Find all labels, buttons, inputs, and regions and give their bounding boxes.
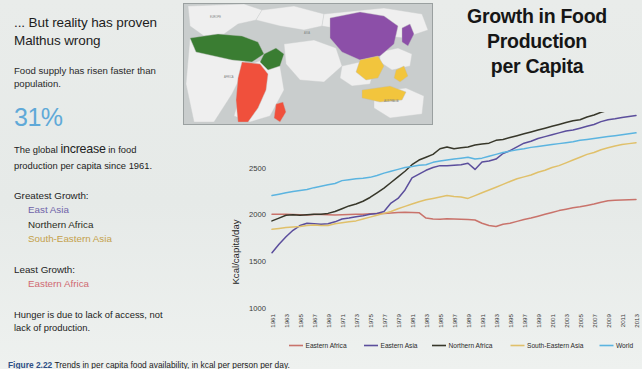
greatest-growth-item-south-eastern-asia: South-Eastern Asia [28,232,180,246]
left-text-panel: ... But reality has proven Malthus wrong… [0,0,190,352]
y-axis-ticks: 1000150020002500 [249,164,266,313]
y-axis-tick-label: 1500 [249,257,266,266]
greatest-growth-label: Greatest Growth: [14,189,180,204]
y-axis-tick-label: 2000 [249,210,266,219]
x-axis-tick-label: 1983 [423,313,430,327]
x-axis-tick-label: 1973 [353,313,360,327]
infographic-page: ... But reality has proven Malthus wrong… [0,0,642,369]
x-axis-tick-label: 1961 [269,313,276,327]
x-axis-tick-label: 1969 [325,313,332,327]
y-axis-tick-label: 1000 [249,304,266,313]
x-axis-ticks: 1961196319651967196919711973197519771979… [269,313,640,327]
least-growth-item-eastern-africa: Eastern Africa [28,277,180,291]
x-axis-tick-label: 1977 [381,313,388,327]
stat-description-pre: The global [14,144,60,155]
page-title-line-1: Growth in Food [437,4,637,29]
x-axis-tick-label: 1965 [297,313,304,327]
x-axis-tick-label: 2003 [563,313,570,327]
series-line-eastern-asia [272,116,636,253]
x-axis-tick-label: 1989 [465,313,472,327]
x-axis-tick-label: 1997 [521,313,528,327]
x-axis-tick-label: 1991 [479,313,486,327]
x-axis-tick-label: 1993 [493,313,500,327]
x-axis-tick-label: 1975 [367,313,374,327]
big-number-stat: 31% [14,105,180,130]
figure-caption: Figure 2.22 Trends in per capita food av… [8,360,638,369]
x-axis-tick-label: 1971 [339,313,346,327]
x-axis-tick-label: 1981 [409,313,416,327]
legend-label-eastern-africa: Eastern Africa [306,342,347,349]
x-axis-tick-label: 1985 [437,313,444,327]
x-axis-tick-label: 1979 [395,313,402,327]
x-axis-tick-label: 2005 [577,313,584,327]
svg-text:AUSTRALIA: AUSTRALIA [384,99,399,103]
page-title-line-2: Production [437,29,637,54]
least-growth-label: Least Growth: [14,263,180,278]
greatest-growth-item-east-asia: East Asia [28,203,180,217]
legend-label-south-eastern-asia: South-Eastern Asia [527,342,584,349]
x-axis-tick-label: 2011 [619,313,626,327]
x-axis-tick-label: 1963 [283,313,290,327]
x-axis-tick-label: 1967 [311,313,318,327]
x-axis-tick-label: 2013 [633,313,640,327]
svg-text:EUROPE: EUROPE [210,15,221,19]
stat-description-emphasis: increase [60,142,105,156]
chart-series-lines [272,112,636,253]
series-line-south-eastern-asia [272,143,636,230]
line-chart: 1000150020002500 19611963196519671969197… [226,112,642,360]
y-axis-tick-label: 2500 [249,164,266,173]
line-chart-svg: 1000150020002500 19611963196519671969197… [226,112,642,360]
world-map: EUROPE ASIA AFRICA AUSTRALIA [183,3,433,125]
x-axis-tick-label: 1995 [507,313,514,327]
subtext: Food supply has risen faster than popula… [14,64,180,90]
headline: ... But reality has proven Malthus wrong [14,14,180,50]
chart-legend: Eastern AfricaEastern AsiaNorthern Afric… [289,342,633,349]
legend-label-world: World [616,342,633,349]
svg-text:AFRICA: AFRICA [224,75,234,79]
greatest-growth-item-northern-africa: Northern Africa [28,218,180,232]
world-map-svg: EUROPE ASIA AFRICA AUSTRALIA [184,4,432,124]
x-axis-tick-label: 1987 [451,313,458,327]
svg-text:ASIA: ASIA [304,31,310,35]
y-axis-title: Kcal/capita/day [230,219,241,284]
x-axis-tick-label: 2001 [549,313,556,327]
series-line-world [272,133,636,196]
legend-label-eastern-asia: Eastern Asia [381,342,418,349]
x-axis-tick-label: 2009 [605,313,612,327]
closing-statement: Hunger is due to lack of access, not lac… [14,308,180,335]
page-title: Growth in Food Production per Capita [437,4,637,78]
stat-description: The global increase in food production p… [14,141,180,173]
x-axis-tick-label: 1999 [535,313,542,327]
page-title-line-3: per Capita [437,54,637,79]
x-axis-tick-label: 2007 [591,313,598,327]
figure-number: Figure 2.22 [8,360,52,369]
legend-label-northern-africa: Northern Africa [449,342,493,349]
figure-caption-body: Trends in per capita food availability, … [52,360,290,369]
